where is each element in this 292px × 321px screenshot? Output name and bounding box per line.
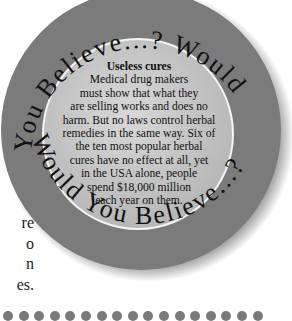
text-line: harm. But no laws control herbal <box>46 114 232 127</box>
text-line: each year on them. <box>46 194 232 207</box>
text-line: Medical drug makers <box>46 73 232 86</box>
divider-dot <box>34 311 44 321</box>
divider-dot <box>253 311 263 321</box>
divider-dot <box>206 311 216 321</box>
text-line: are selling works and does no <box>46 100 232 113</box>
text-line: remedies in the same way. Six of <box>46 127 232 140</box>
divider-dot <box>50 311 60 321</box>
text-line: must show that what they <box>46 87 232 100</box>
text-line: in the USA alone, people <box>46 167 232 180</box>
divider-dot <box>221 311 231 321</box>
divider-dot <box>190 311 200 321</box>
divider-dot <box>81 311 91 321</box>
section-title: Useless cures <box>46 60 232 73</box>
dotted-divider <box>3 311 263 321</box>
useless-cures-text: Useless cures Medical drug makers must s… <box>46 60 232 207</box>
divider-dot <box>159 311 169 321</box>
divider-dot <box>112 311 122 321</box>
divider-dot <box>175 311 185 321</box>
text-line: cures have no effect at all, yet <box>46 154 232 167</box>
divider-dot <box>19 311 29 321</box>
divider-dot <box>3 311 13 321</box>
divider-dot <box>237 311 247 321</box>
divider-dot <box>143 311 153 321</box>
divider-dot <box>128 311 138 321</box>
text-line: the ten most popular herbal <box>46 140 232 153</box>
text-line: spend $18,000 million <box>46 181 232 194</box>
divider-dot <box>65 311 75 321</box>
divider-dot <box>97 311 107 321</box>
